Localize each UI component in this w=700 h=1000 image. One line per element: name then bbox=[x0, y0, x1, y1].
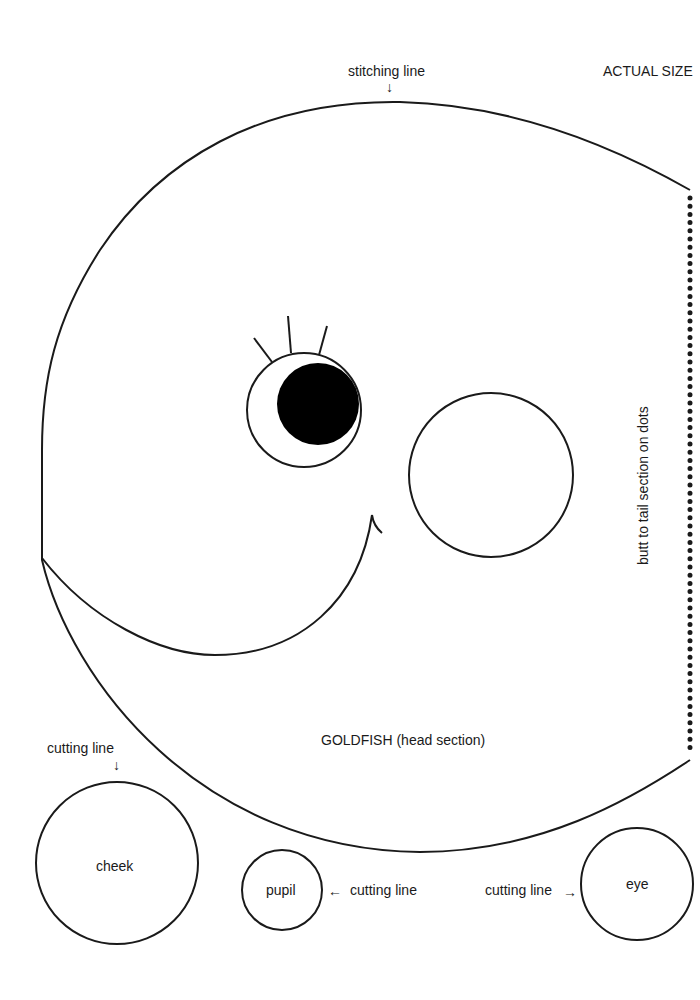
jaw-line bbox=[42, 515, 372, 655]
eyelash-right bbox=[319, 326, 327, 355]
cheek-label: cheek bbox=[96, 859, 133, 873]
eyelash-middle bbox=[288, 316, 291, 353]
eye-cutting-line-label: cutting line bbox=[485, 883, 552, 897]
eyelash-left bbox=[254, 338, 272, 362]
actual-size-label: ACTUAL SIZE bbox=[603, 64, 693, 78]
piece-title: GOLDFISH (head section) bbox=[321, 733, 485, 747]
goldfish-head-pattern bbox=[0, 0, 700, 1000]
down-arrow-icon: ↓ bbox=[113, 758, 120, 772]
pupil-cutting-line-label: cutting line bbox=[350, 883, 417, 897]
butt-note: butt to tail section on dots bbox=[636, 406, 650, 565]
smile-hook bbox=[372, 515, 382, 533]
stitching-line-label: stitching line bbox=[348, 64, 425, 78]
pupil-fill bbox=[277, 363, 359, 445]
left-arrow-icon: ← bbox=[328, 884, 342, 898]
pupil-label: pupil bbox=[266, 883, 296, 897]
cheek-cutting-line-label: cutting line bbox=[47, 741, 114, 755]
cheek-placement bbox=[409, 393, 573, 557]
down-arrow-icon: ↓ bbox=[386, 80, 393, 94]
right-arrow-icon: → bbox=[563, 885, 577, 899]
eye-label: eye bbox=[626, 877, 649, 891]
